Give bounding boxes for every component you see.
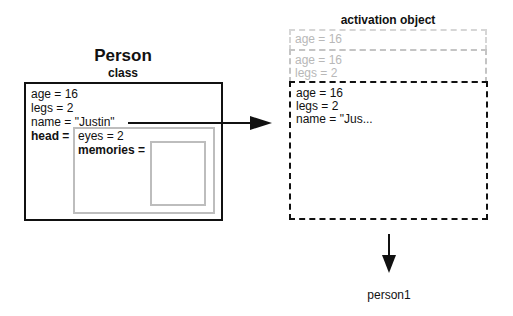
field-head-label: head =	[31, 130, 69, 143]
current-frame-name: name = "Jus...	[296, 113, 373, 126]
head-field-eyes: eyes = 2	[78, 130, 124, 143]
field-age: age = 16	[31, 88, 78, 101]
activation-object-title: activation object	[289, 13, 487, 27]
memories-object-box	[150, 141, 206, 206]
head-field-memories-label: memories =	[78, 144, 145, 157]
person-class-subtitle: class	[24, 66, 222, 80]
ghost-frame-2-legs: legs = 2	[295, 67, 337, 80]
arrow-down-icon	[379, 233, 399, 275]
arrow-right-icon	[126, 113, 276, 133]
ghost-frame-1-age: age = 16	[295, 33, 342, 46]
person-class-title: Person	[24, 46, 222, 66]
field-legs: legs = 2	[31, 102, 73, 115]
output-label: person1	[359, 289, 419, 302]
